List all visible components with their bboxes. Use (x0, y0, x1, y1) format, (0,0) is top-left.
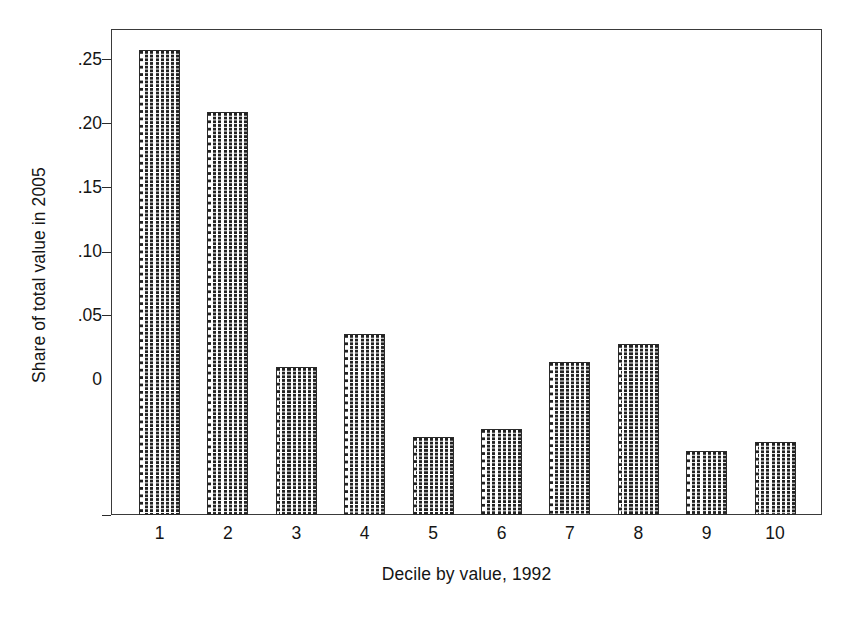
bar-hatch-pattern (482, 430, 521, 514)
x-axis-title: Decile by value, 1992 (111, 564, 822, 585)
x-tick-label-3: 3 (266, 524, 326, 543)
x-tick-label-5: 5 (403, 524, 463, 543)
y-tick-label-0.15: .15 (46, 179, 102, 197)
y-tick-label-0: 0 (46, 371, 102, 389)
y-tick-mark-0.20 (102, 123, 111, 124)
x-tick-label-1: 1 (130, 524, 190, 543)
y-tick-label-0.05: .05 (46, 307, 102, 325)
x-tick-label-10: 10 (745, 524, 805, 543)
bar-decile-10[interactable] (755, 442, 796, 515)
y-tick-label-0.20: .20 (46, 115, 102, 133)
bar-hatch-pattern (756, 443, 795, 514)
x-tick-label-7: 7 (540, 524, 600, 543)
bar-hatch-pattern (140, 51, 179, 514)
bar-decile-3[interactable] (276, 367, 317, 515)
bar-decile-7[interactable] (549, 362, 590, 515)
bar-hatch-pattern (208, 113, 247, 514)
x-tick-label-4: 4 (335, 524, 395, 543)
bar-decile-5[interactable] (413, 437, 454, 515)
bar-hatch-pattern (550, 363, 589, 514)
bar-hatch-pattern (687, 452, 726, 514)
y-tick-label-0.25: .25 (46, 51, 102, 69)
y-axis-tick-labels: .25 .20 .15 .10 .05 0 (40, 0, 102, 618)
bar-chart-figure: Share of total value in 2005 .25 .20 .15… (0, 0, 846, 618)
x-tick-label-9: 9 (677, 524, 737, 543)
bar-decile-9[interactable] (686, 451, 727, 515)
y-tick-mark-0.25 (102, 59, 111, 60)
x-tick-label-6: 6 (472, 524, 532, 543)
y-tick-mark-0 (102, 515, 111, 516)
bar-hatch-pattern (619, 345, 658, 515)
bar-hatch-pattern (345, 335, 384, 514)
bar-hatch-pattern (414, 438, 453, 514)
x-tick-label-2: 2 (198, 524, 258, 543)
bar-decile-8[interactable] (618, 344, 659, 516)
y-tick-mark-0.15 (102, 187, 111, 188)
bar-hatch-pattern (277, 368, 316, 514)
y-tick-label-0.10: .10 (46, 243, 102, 261)
y-tick-mark-0.05 (102, 315, 111, 316)
bar-decile-2[interactable] (207, 112, 248, 515)
bar-decile-1[interactable] (139, 50, 180, 515)
bar-decile-6[interactable] (481, 429, 522, 515)
x-tick-label-8: 8 (608, 524, 668, 543)
bar-decile-4[interactable] (344, 334, 385, 515)
y-tick-mark-0.10 (102, 252, 111, 253)
